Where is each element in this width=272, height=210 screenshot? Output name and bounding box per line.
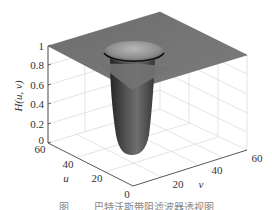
z-tick-1: 1	[39, 40, 45, 52]
z-axis-label: H(u, v)	[12, 80, 25, 112]
u-tick-40: 40	[63, 158, 75, 170]
u-axis-label: u	[63, 172, 69, 184]
z-tick-0.4: 0.4	[30, 98, 44, 110]
v-tick-20: 20	[173, 178, 185, 190]
z-tick-0.8: 0.8	[30, 59, 44, 71]
u-tick-20: 20	[92, 172, 104, 184]
figure-caption: 图 …… 巴特沃斯带阻滤波器透视图	[0, 199, 272, 210]
z-tick-0.2: 0.2	[30, 118, 44, 130]
v-tick-40: 40	[212, 164, 224, 176]
u-tick-60: 60	[35, 143, 47, 155]
v-axis-label: v	[199, 178, 204, 190]
z-tick-0.6: 0.6	[30, 79, 44, 91]
u-tick-labels: 60 40 20 0	[35, 143, 131, 200]
z-tick-labels: 1 0.8 0.6 0.4 0.2 0	[30, 40, 44, 147]
surface-plot: 1 0.8 0.6 0.4 0.2 0 H(u, v) 60 40 20 0 u…	[0, 0, 272, 210]
v-tick-labels: 20 40 60	[173, 152, 264, 190]
v-tick-60: 60	[252, 152, 264, 164]
